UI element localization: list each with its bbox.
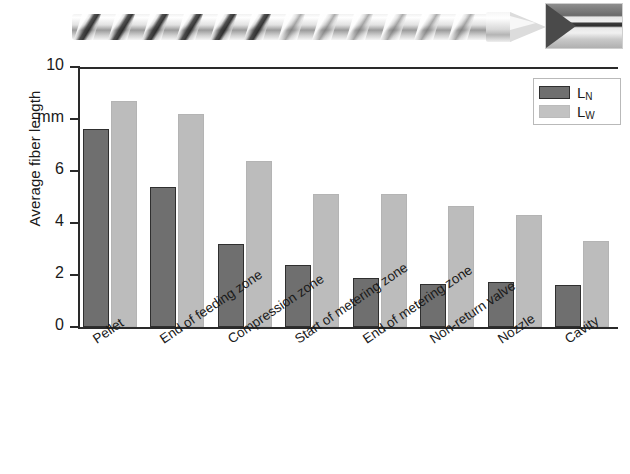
y-axis-tick: [70, 170, 80, 172]
y-axis-tick: [70, 118, 80, 120]
legend-item-ln[interactable]: LN: [539, 83, 615, 101]
y-axis-tick: [70, 274, 80, 276]
legend-item-lw[interactable]: LW: [539, 102, 615, 120]
legend-label-lw: LW: [577, 104, 595, 119]
legend-swatch-ln-icon: [539, 86, 570, 99]
legend-swatch-lw-icon: [539, 105, 570, 118]
bar-ln-cavity: [555, 285, 581, 327]
bar-ln-end-of-feeding-zone: [150, 187, 176, 327]
bar-chart: Average fiber length 0246mm10 PelletEnd …: [0, 0, 630, 474]
y-axis-tick: [70, 222, 80, 224]
bar-lw-pellet: [111, 101, 137, 327]
chart-legend: LN LW: [533, 78, 621, 125]
bar-ln-pellet: [83, 129, 109, 327]
y-axis-tick-label: mm: [4, 108, 64, 126]
bar-lw-end-of-feeding-zone: [178, 114, 204, 327]
x-axis-line: [78, 327, 618, 329]
bar-lw-cavity: [583, 241, 609, 327]
y-axis-tick: [70, 326, 80, 328]
y-axis-tick-label: 2: [4, 264, 64, 282]
y-axis-tick-label: 4: [4, 212, 64, 230]
y-axis-tick-label: 6: [4, 160, 64, 178]
y-axis-tick-label: 10: [4, 56, 64, 74]
y-axis-tick: [70, 66, 80, 68]
y-axis-tick-label: 0: [4, 316, 64, 334]
bar-lw-compression-zone: [246, 161, 272, 327]
legend-label-ln: LN: [577, 85, 593, 100]
